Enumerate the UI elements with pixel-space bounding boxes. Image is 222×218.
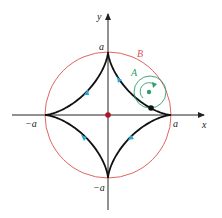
circle-a-group: [134, 76, 166, 108]
label-neg-a-y: −a: [93, 182, 105, 193]
astroid-diagram: y x a −a −a a B A: [0, 0, 222, 218]
x-axis-label: x: [201, 119, 207, 130]
circle-a-center: [147, 90, 151, 94]
label-pos-a-y: a: [99, 41, 104, 52]
axes: [12, 14, 204, 210]
label-circle-b: B: [137, 48, 143, 59]
rotation-arrowhead-icon: [152, 82, 157, 88]
label-circle-a: A: [130, 67, 138, 78]
label-neg-a-x: −a: [25, 118, 37, 129]
y-axis-label: y: [96, 11, 102, 22]
origin-dot: [105, 112, 111, 118]
tracing-point: [148, 105, 154, 111]
label-pos-a-x: a: [173, 118, 178, 129]
